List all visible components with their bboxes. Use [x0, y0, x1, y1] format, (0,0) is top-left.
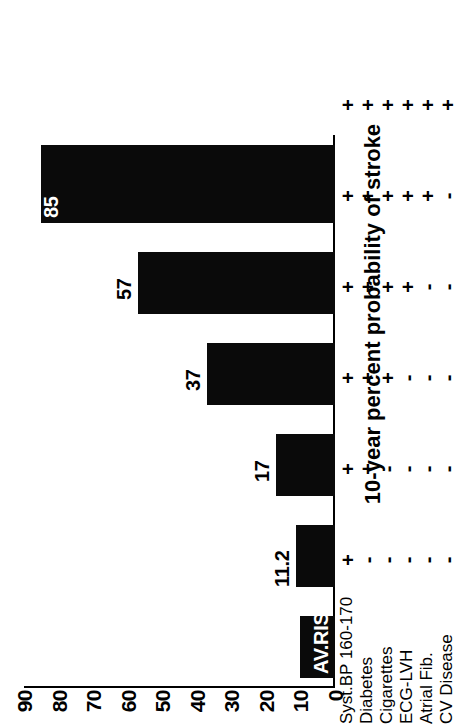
bar-label-17: 17 [252, 460, 272, 482]
y-tick-80: 80 [48, 690, 69, 720]
sign-ecg-lvh-85: + [398, 94, 418, 116]
x-axis-title: 10-year percent probability of stroke [362, 54, 384, 574]
bar-label-11-2: 11.2 [272, 550, 292, 587]
risk-row-label-cigarettes: Cigarettes [378, 574, 395, 724]
sign-ecg-lvh-11-2: - [398, 458, 418, 480]
y-tick-20: 20 [255, 690, 276, 720]
risk-row-label-systbp: Syst.BP 160-170 [338, 574, 355, 724]
sign-cv-disease-57: - [438, 185, 458, 207]
bar-label-85: 85 [41, 196, 61, 218]
bar-17 [276, 434, 335, 496]
risk-row-label-atrial-fib: Atrial Fib. [418, 574, 435, 724]
bar-37 [207, 343, 335, 405]
bar-label-57: 57 [114, 278, 134, 300]
sign-atrial-fib-57: + [418, 185, 438, 207]
sign-cv-disease-85: + [438, 94, 458, 116]
sign-atrial-fib-17: - [418, 367, 438, 389]
y-tick-90: 90 [14, 690, 35, 720]
y-tick-10: 10 [290, 690, 311, 720]
sign-systbp-11-2: + [338, 458, 358, 480]
bar-label-av-risk: AV.RISK [311, 598, 331, 674]
y-tick-60: 60 [117, 690, 138, 720]
sign-atrial-fib-av-risk: - [418, 549, 438, 571]
y-tick-30: 30 [221, 690, 242, 720]
bar-label-37: 37 [183, 369, 203, 391]
y-tick-50: 50 [152, 690, 173, 720]
bars-group: AV.RISK 11.2 17 37 57 85 [24, 135, 335, 686]
risk-row-label-cv-disease: CV Disease [438, 574, 455, 724]
risk-row-label-diabetes: Diabetes [358, 574, 375, 724]
risk-row-label-ecg-lvh: ECG-LVH [398, 574, 415, 724]
sign-systbp-17: + [338, 367, 358, 389]
y-tick-70: 70 [83, 690, 104, 720]
sign-ecg-lvh-57: + [398, 185, 418, 207]
bar-11-2 [296, 525, 335, 587]
bar-57 [138, 252, 335, 314]
sign-cv-disease-av-risk: - [438, 549, 458, 571]
sign-cv-disease-37: - [438, 276, 458, 298]
sign-systbp-av-risk: + [338, 549, 358, 571]
sign-ecg-lvh-17: - [398, 367, 418, 389]
sign-atrial-fib-85: + [418, 94, 438, 116]
sign-ecg-lvh-37: + [398, 276, 418, 298]
sign-atrial-fib-11-2: - [418, 458, 438, 480]
y-axis: 90 80 70 60 50 40 30 20 10 0 [24, 690, 335, 724]
sign-atrial-fib-37: - [418, 276, 438, 298]
sign-cv-disease-11-2: - [438, 458, 458, 480]
sign-ecg-lvh-av-risk: - [398, 549, 418, 571]
sign-cv-disease-17: - [438, 367, 458, 389]
sign-systbp-57: + [338, 185, 358, 207]
sign-systbp-37: + [338, 276, 358, 298]
bar-85 [41, 145, 335, 223]
sign-systbp-85: + [338, 94, 358, 116]
y-tick-40: 40 [186, 690, 207, 720]
